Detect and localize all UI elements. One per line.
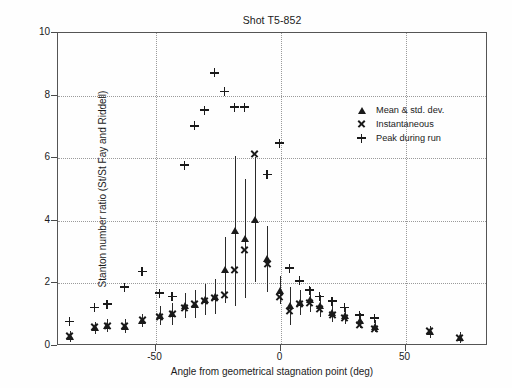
data-point-plus bbox=[155, 289, 164, 298]
data-point-x bbox=[285, 306, 294, 315]
legend-item-peak: Peak during run bbox=[355, 131, 485, 145]
data-point-plus bbox=[190, 121, 199, 130]
data-point-x bbox=[155, 312, 164, 321]
data-point-plus bbox=[240, 103, 249, 112]
data-point-plus bbox=[230, 103, 239, 112]
data-point-x bbox=[328, 311, 337, 320]
legend-label: Mean & std. dev. bbox=[371, 105, 444, 115]
legend-item-instantaneous: Instantaneous bbox=[355, 117, 485, 131]
plus-icon bbox=[355, 131, 371, 145]
data-point-plus bbox=[120, 283, 129, 292]
data-point-x bbox=[230, 265, 239, 274]
y-axis-tick-label: 2 bbox=[20, 276, 50, 287]
data-point-x bbox=[250, 150, 259, 159]
data-point-x bbox=[305, 298, 314, 307]
y-axis-tick-label: 8 bbox=[20, 89, 50, 100]
data-point-x bbox=[315, 305, 324, 314]
data-point-triangle bbox=[231, 227, 239, 234]
data-point-plus bbox=[138, 267, 147, 276]
data-point-plus bbox=[305, 286, 314, 295]
y-axis-tick-label: 4 bbox=[20, 214, 50, 225]
data-point-plus bbox=[275, 139, 284, 148]
data-point-x bbox=[370, 324, 379, 333]
data-point-x bbox=[103, 321, 112, 330]
x-axis-tick-label: 50 bbox=[385, 351, 425, 362]
data-marker-layer bbox=[57, 32, 487, 345]
data-point-plus bbox=[370, 314, 379, 323]
data-point-x bbox=[240, 245, 249, 254]
data-point-x bbox=[275, 292, 284, 301]
data-point-plus bbox=[200, 106, 209, 115]
x-axis-tick-label: -50 bbox=[135, 351, 175, 362]
page-title: Shot T5-852 bbox=[57, 14, 487, 26]
y-axis-label-container: Stanton number ratio (St/St Fay and Ridd… bbox=[0, 32, 26, 345]
data-point-plus bbox=[220, 87, 229, 96]
chart-legend: Mean & std. dev. Instantaneous Peak duri… bbox=[355, 103, 485, 145]
data-point-x bbox=[138, 315, 147, 324]
figure-canvas: Shot T5-852 Stanton number ratio (St/St … bbox=[0, 0, 512, 388]
data-point-x bbox=[455, 334, 464, 343]
data-point-plus bbox=[103, 300, 112, 309]
data-point-plus bbox=[210, 68, 219, 77]
x-axis-label: Angle from geometrical stagnation point … bbox=[57, 366, 487, 377]
data-point-plus bbox=[180, 161, 189, 170]
triangle-icon bbox=[355, 103, 371, 117]
y-axis-tick-label: 10 bbox=[20, 26, 50, 37]
y-axis-tick bbox=[51, 345, 57, 346]
data-point-x bbox=[168, 309, 177, 318]
y-axis-tick-label: 6 bbox=[20, 151, 50, 162]
data-point-plus bbox=[328, 297, 337, 306]
data-point-x bbox=[180, 303, 189, 312]
data-point-x bbox=[220, 290, 229, 299]
data-point-x bbox=[340, 314, 349, 323]
data-point-triangle bbox=[241, 235, 249, 242]
data-point-x bbox=[90, 322, 99, 331]
data-point-plus bbox=[285, 264, 294, 273]
data-point-x bbox=[65, 331, 74, 340]
data-point-x bbox=[263, 259, 272, 268]
data-point-x bbox=[295, 300, 304, 309]
x-axis-tick-label: 0 bbox=[260, 351, 300, 362]
x-icon bbox=[355, 117, 371, 131]
data-point-plus bbox=[315, 292, 324, 301]
legend-label: Instantaneous bbox=[371, 119, 434, 129]
data-point-x bbox=[120, 321, 129, 330]
data-point-x bbox=[210, 294, 219, 303]
data-point-x bbox=[355, 320, 364, 329]
data-point-x bbox=[425, 326, 434, 335]
data-point-plus bbox=[295, 276, 304, 285]
data-point-x bbox=[190, 300, 199, 309]
legend-label: Peak during run bbox=[371, 133, 441, 143]
data-point-plus bbox=[340, 303, 349, 312]
data-point-x bbox=[200, 297, 209, 306]
data-point-plus bbox=[263, 170, 272, 179]
y-axis-tick-label: 0 bbox=[20, 339, 50, 350]
data-point-plus bbox=[355, 311, 364, 320]
legend-item-mean: Mean & std. dev. bbox=[355, 103, 485, 117]
data-point-plus bbox=[65, 317, 74, 326]
data-point-plus bbox=[90, 303, 99, 312]
data-point-triangle bbox=[221, 266, 229, 273]
data-point-triangle bbox=[251, 216, 259, 223]
data-point-plus bbox=[168, 292, 177, 301]
